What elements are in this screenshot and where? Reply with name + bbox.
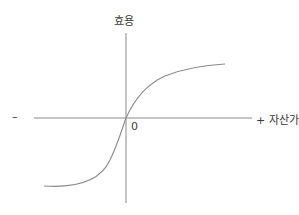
origin-label: 0: [131, 120, 138, 133]
x-negative-label: –: [12, 110, 18, 123]
y-axis-label: 효용: [114, 12, 134, 28]
diagram-canvas: [0, 0, 299, 215]
x-axis-label: + 자산가치: [256, 111, 299, 127]
value-function-diagram: 효용 + 자산가치 – 0: [0, 0, 299, 215]
